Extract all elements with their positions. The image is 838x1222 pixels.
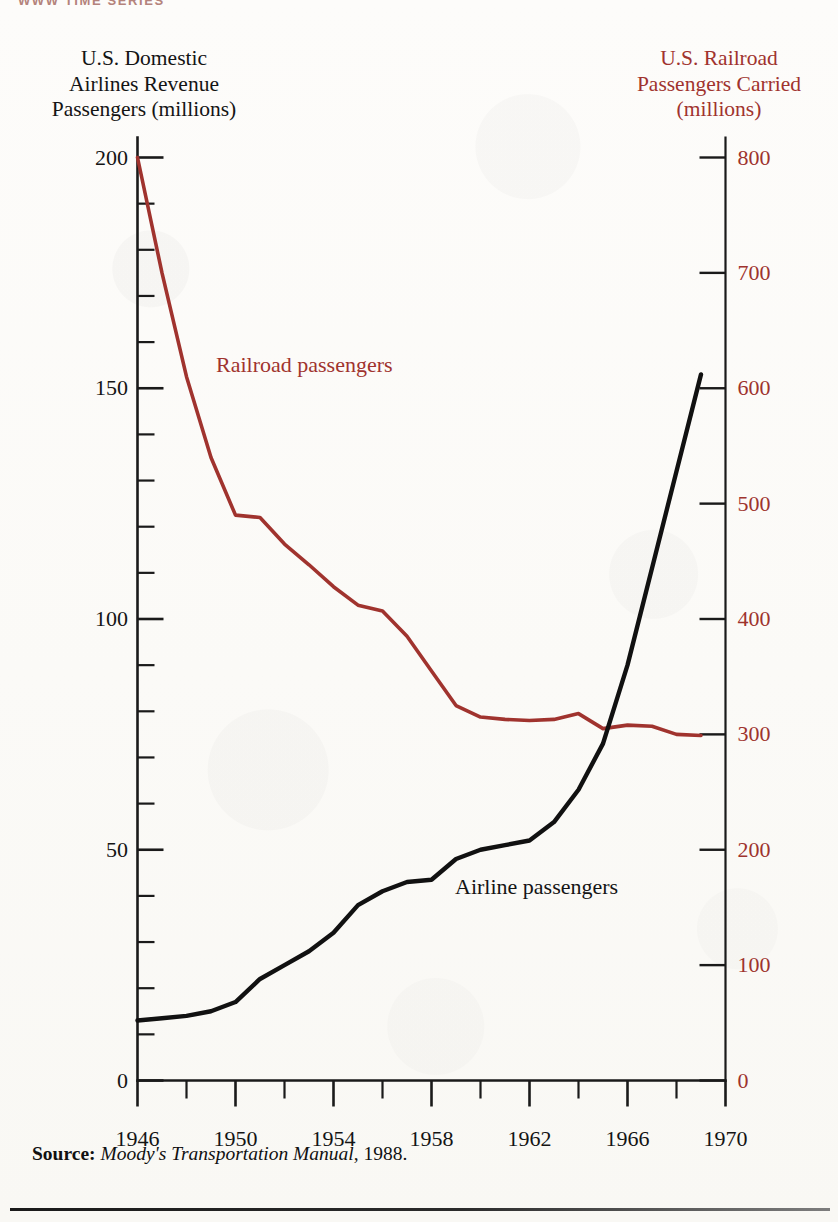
series-line-airline [138, 374, 702, 1020]
right-axis-tick-label: 100 [738, 954, 771, 976]
x-axis-tick-label: 1958 [410, 1128, 454, 1150]
left-axis-tick-label: 50 [40, 839, 128, 861]
x-axis-tick-label: 1962 [508, 1128, 552, 1150]
chart-page: WWW TIME SERIES U.S. Domestic Airlines R… [0, 0, 838, 1222]
right-axis-tick-label: 800 [738, 147, 771, 169]
source-label: Source: [32, 1143, 96, 1164]
series-line-railroad [138, 158, 702, 736]
left-axis-tick-label: 0 [40, 1070, 128, 1092]
right-axis-tick-label: 600 [738, 377, 771, 399]
source-year: , 1988. [354, 1143, 408, 1164]
left-axis-tick-label: 100 [40, 608, 128, 630]
right-axis-tick-label: 400 [738, 608, 771, 630]
left-axis-tick-label: 150 [40, 377, 128, 399]
right-axis-tick-label: 200 [738, 839, 771, 861]
right-axis-tick-label: 0 [738, 1070, 749, 1092]
right-axis-tick-label: 300 [738, 723, 771, 745]
right-axis-tick-label: 500 [738, 493, 771, 515]
x-axis-tick-label: 1966 [606, 1128, 650, 1150]
series-annotation-airline: Airline passengers [455, 874, 618, 900]
bottom-divider [10, 1208, 830, 1211]
left-axis-tick-label: 200 [40, 147, 128, 169]
source-note: Source: Moody's Transportation Manual, 1… [32, 1143, 407, 1165]
series-annotation-railroad: Railroad passengers [216, 352, 393, 378]
x-axis-tick-label: 1970 [704, 1128, 748, 1150]
source-title: Moody's Transportation Manual [100, 1143, 353, 1164]
right-axis-tick-label: 700 [738, 262, 771, 284]
